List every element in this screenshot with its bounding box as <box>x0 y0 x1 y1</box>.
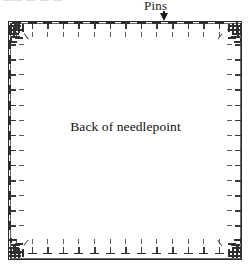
pin-right <box>226 191 242 207</box>
pin-left <box>9 146 25 162</box>
pin-left <box>9 191 25 207</box>
pin-left <box>9 101 25 117</box>
pin-bottom <box>152 238 168 254</box>
pin-left <box>9 116 25 132</box>
pin-top <box>137 22 153 38</box>
pin-right <box>226 176 242 192</box>
pin-bottom <box>168 238 184 254</box>
pin-right <box>226 131 242 147</box>
pin-left <box>9 221 25 237</box>
pin-left <box>9 55 25 71</box>
pin-bottom <box>43 238 59 254</box>
pin-top <box>59 22 75 38</box>
pin-right <box>226 85 242 101</box>
pin-left <box>9 85 25 101</box>
pin-top <box>106 22 122 38</box>
pin-bottom <box>184 238 200 254</box>
pin-top <box>152 22 168 38</box>
pin-top <box>43 22 59 38</box>
pin-bottom <box>59 238 75 254</box>
pin-right <box>226 70 242 86</box>
pin-bottom <box>121 238 137 254</box>
pin-right <box>226 55 242 71</box>
pin-top <box>121 22 137 38</box>
pin-bottom <box>106 238 122 254</box>
pin-bottom <box>137 238 153 254</box>
pin-right <box>226 206 242 222</box>
pin-top <box>168 22 184 38</box>
pin-top <box>184 22 200 38</box>
pin-left <box>9 131 25 147</box>
pin-right <box>226 161 242 177</box>
pin-top <box>74 22 90 38</box>
caption-remnant: —— — — — <box>3 0 81 4</box>
pin-left <box>9 161 25 177</box>
corner-cluster-top-left <box>9 22 31 44</box>
pin-bottom <box>74 238 90 254</box>
corner-cluster-top-right <box>220 22 242 44</box>
needlepoint-canvas-frame <box>8 21 242 260</box>
pin-bottom <box>90 238 106 254</box>
pin-bottom <box>199 238 215 254</box>
pin-left <box>9 70 25 86</box>
corner-cluster-bottom-right <box>220 237 242 259</box>
arrow-down-icon <box>160 13 168 21</box>
pin-top <box>199 22 215 38</box>
pin-right <box>226 221 242 237</box>
pin-left <box>9 176 25 192</box>
pin-left <box>9 206 25 222</box>
pin-right <box>226 116 242 132</box>
pin-right <box>226 146 242 162</box>
pin-top <box>90 22 106 38</box>
center-label: Back of needlepoint <box>0 119 251 135</box>
needlepoint-blocking-figure: —— — — — Pins Back of needlepoint <box>0 0 251 271</box>
pin-right <box>226 101 242 117</box>
